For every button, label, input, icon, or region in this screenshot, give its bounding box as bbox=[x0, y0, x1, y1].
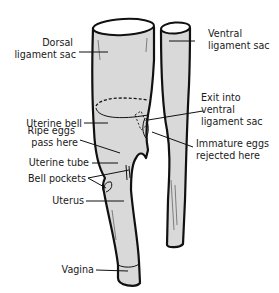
label-immature-eggs: Immature eggs rejected here bbox=[196, 138, 272, 161]
label-uterine-tube: Uterine tube bbox=[29, 157, 89, 168]
label-bell-pockets: Bell pockets bbox=[28, 173, 86, 184]
label-exit-into-ventral: Exit into ventral ligament sac bbox=[201, 92, 263, 127]
label-vagina: Vagina bbox=[62, 264, 94, 275]
label-ripe-eggs: Ripe eggs pass here bbox=[27, 125, 78, 148]
label-ventral-ligament-sac: Ventral ligament sac bbox=[208, 28, 270, 51]
reproductive-tract-diagram: Dorsal ligament sac Ventral ligament sac… bbox=[0, 0, 279, 293]
label-dorsal-ligament-sac: Dorsal ligament sac bbox=[14, 37, 76, 60]
ventral-ligament-sac-shape bbox=[161, 22, 191, 248]
label-uterus: Uterus bbox=[52, 195, 84, 206]
dorsal-ligament-sac-shape bbox=[92, 17, 154, 285]
